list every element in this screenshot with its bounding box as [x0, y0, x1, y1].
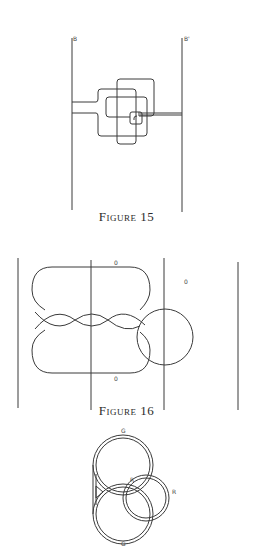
- figure-17-diagram: [0, 430, 253, 554]
- figure-15-caption: Figure 15: [0, 209, 253, 225]
- label-b: B: [73, 35, 77, 42]
- label-circle-zero: 0: [184, 278, 188, 285]
- figure-16-diagram: [0, 230, 253, 430]
- label-bottom-g: G: [121, 540, 126, 547]
- label-top-g: G: [121, 427, 126, 434]
- figure-16: 0 0 0 Figure 16: [0, 230, 253, 430]
- label-bottom-zero: 0: [114, 375, 118, 382]
- figure-16-caption: Figure 16: [0, 403, 253, 419]
- label-inner-r: R: [130, 476, 134, 483]
- label-outer-r: R: [172, 488, 176, 495]
- figure-15: B B' Figure 15: [0, 0, 253, 230]
- figure-17: G R R G: [0, 430, 253, 554]
- label-top-zero: 0: [114, 259, 118, 266]
- label-b-prime: B': [184, 35, 190, 42]
- figure-15-diagram: [0, 0, 253, 230]
